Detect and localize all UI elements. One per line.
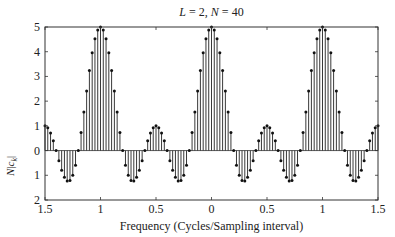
y-tick-label: 1 <box>34 119 40 133</box>
stem-marker <box>163 139 166 142</box>
stem-marker <box>354 180 357 183</box>
stem-marker <box>227 111 230 114</box>
stem-marker <box>216 37 219 40</box>
stem-marker <box>271 131 274 134</box>
stem-marker <box>138 169 141 172</box>
stem-marker <box>268 126 271 129</box>
stem-marker <box>185 164 188 167</box>
stem-marker <box>196 89 199 92</box>
stem-marker <box>177 180 180 183</box>
stem-marker <box>365 149 368 152</box>
stem-marker <box>313 51 316 54</box>
stem-marker <box>107 51 110 54</box>
stem-marker <box>46 126 49 129</box>
stem-marker <box>66 180 69 183</box>
y-tick-label: 2 <box>34 193 40 207</box>
stem-marker <box>246 176 249 179</box>
x-tick-label: 0.5 <box>260 202 275 216</box>
stem-marker <box>168 159 171 162</box>
stem-marker <box>55 149 58 152</box>
x-tick-label: 1.5 <box>371 202 386 216</box>
stem-marker <box>371 131 374 134</box>
stem-marker <box>96 29 99 32</box>
stem-marker <box>338 111 341 114</box>
stem-marker <box>368 139 371 142</box>
stem-marker <box>57 159 60 162</box>
stem-marker <box>127 174 130 177</box>
stem-marker <box>105 37 108 40</box>
stem-marker <box>340 131 343 134</box>
stem-marker <box>274 139 277 142</box>
stem-marker <box>232 149 235 152</box>
stem-marker <box>352 179 355 182</box>
stem-marker <box>266 124 269 127</box>
stem-marker <box>224 89 227 92</box>
y-tick-label: 2 <box>34 94 40 108</box>
stem-marker <box>349 174 352 177</box>
stem-marker <box>199 69 202 72</box>
stem-marker <box>343 149 346 152</box>
stem-marker <box>160 131 163 134</box>
stem-marker <box>324 29 327 32</box>
stem-marker <box>304 111 307 114</box>
stem-marker <box>293 174 296 177</box>
stem-marker <box>229 131 232 134</box>
y-tick-label: 0 <box>34 144 40 158</box>
stem-marker <box>204 37 207 40</box>
stem-marker <box>327 37 330 40</box>
stem-marker <box>346 164 349 167</box>
y-axis-label: N|ck| <box>4 90 19 110</box>
stem-marker <box>93 37 96 40</box>
stem-marker <box>277 149 280 152</box>
stem-marker <box>235 164 238 167</box>
stem-marker <box>310 69 313 72</box>
stem-marker <box>279 159 282 162</box>
stem-marker <box>332 69 335 72</box>
stem-marker <box>260 131 263 134</box>
stem-marker <box>252 159 255 162</box>
stem-marker <box>207 29 210 32</box>
y-tick-label: 1 <box>34 168 40 182</box>
stem-marker <box>152 126 155 129</box>
stem-plot: 1.510.500.511.554321012 <box>0 0 395 237</box>
stem-marker <box>360 169 363 172</box>
stem-marker <box>157 126 160 129</box>
x-tick-label: 1 <box>320 202 326 216</box>
x-tick-label: 0.5 <box>149 202 164 216</box>
stem-marker <box>116 111 119 114</box>
stem-marker <box>121 149 124 152</box>
stem-marker <box>143 149 146 152</box>
stem-marker <box>82 111 85 114</box>
stem-marker <box>357 176 360 179</box>
stem-marker <box>374 126 377 129</box>
stem-marker <box>263 126 266 129</box>
y-tick-label: 5 <box>34 20 40 34</box>
stem-marker <box>290 179 293 182</box>
stem-marker <box>243 180 246 183</box>
stem-marker <box>254 149 257 152</box>
stem-marker <box>302 131 305 134</box>
stem-marker <box>132 180 135 183</box>
stem-marker <box>296 164 299 167</box>
stem-marker <box>49 131 52 134</box>
stem-marker <box>249 169 252 172</box>
stem-marker <box>188 149 191 152</box>
stem-marker <box>130 179 133 182</box>
stem-marker <box>80 131 83 134</box>
stem-marker <box>363 159 366 162</box>
stem-marker <box>60 169 63 172</box>
stem-series <box>44 26 380 183</box>
stem-marker <box>77 149 80 152</box>
stem-marker <box>202 51 205 54</box>
x-tick-label: 1 <box>98 202 104 216</box>
stem-marker <box>221 69 224 72</box>
stem-marker <box>174 176 177 179</box>
stem-marker <box>74 164 77 167</box>
stem-marker <box>218 51 221 54</box>
stem-marker <box>213 29 216 32</box>
stem-marker <box>110 69 113 72</box>
stem-marker <box>141 159 144 162</box>
stem-marker <box>179 179 182 182</box>
stem-marker <box>63 176 66 179</box>
stem-marker <box>171 169 174 172</box>
